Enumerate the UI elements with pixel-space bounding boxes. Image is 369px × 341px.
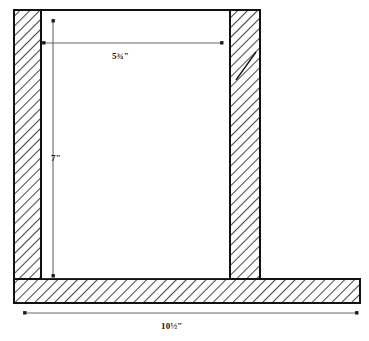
interior-opening bbox=[42, 12, 229, 279]
drawing-canvas bbox=[0, 0, 369, 341]
base-slab bbox=[14, 279, 360, 303]
left-wall bbox=[14, 10, 41, 279]
height-dimension-label: 7" bbox=[51, 154, 61, 163]
base-slab-body bbox=[14, 279, 360, 303]
width-dimension-label: 5¾" bbox=[112, 52, 129, 61]
technical-drawing: 5¾" 7" 10½" bbox=[0, 0, 369, 341]
left-wall-body bbox=[14, 10, 41, 279]
right-wall bbox=[230, 10, 260, 279]
right-wall-body bbox=[230, 10, 260, 279]
base-width-dimension-label: 10½" bbox=[161, 322, 183, 331]
